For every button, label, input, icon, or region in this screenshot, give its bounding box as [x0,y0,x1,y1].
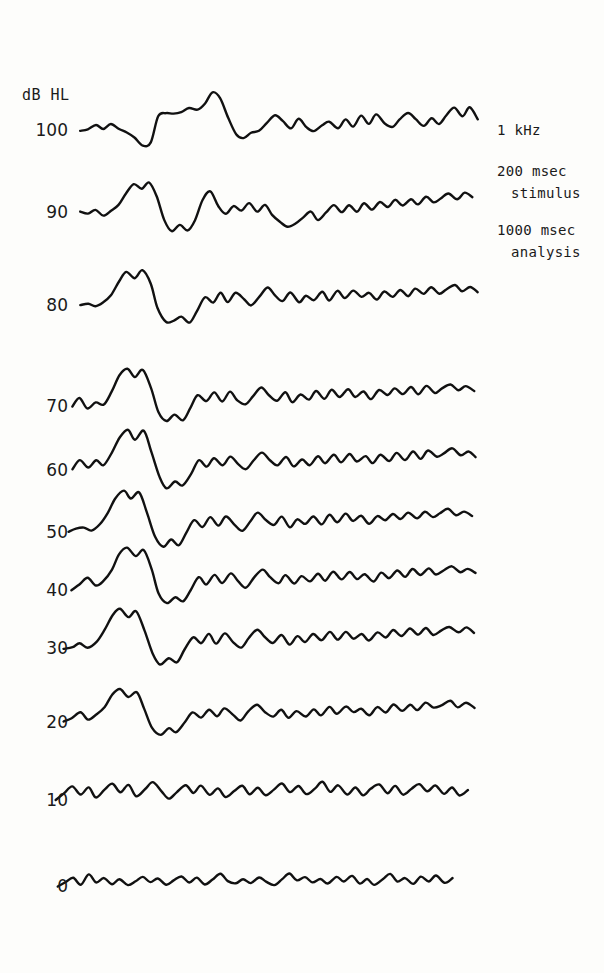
waveform-trace [72,430,475,489]
level-label-50: 50 [20,522,68,542]
waveform-trace [72,369,474,421]
waveform-trace [64,689,475,735]
waveform-trace [64,609,475,665]
annotation-line-4: analysis [511,244,581,260]
axis-unit-label: dB HL [22,86,70,104]
level-label-40: 40 [20,580,68,600]
waveform-trace [58,874,453,887]
waveform-trace [80,182,472,231]
level-label-70: 70 [20,396,68,416]
annotation-line-2: stimulus [511,185,581,201]
waveform-trace [71,548,475,604]
level-label-0: 0 [20,876,68,896]
level-label-100: 100 [20,120,68,140]
waveform-trace [80,92,478,146]
waveform-plot-canvas [0,0,604,973]
evoked-response-figure: dB HL 1009080706050403020100 1 kHz200 ms… [0,0,604,973]
waveform-trace [56,782,468,800]
annotation-line-3: 1000 msec [497,222,576,238]
level-label-30: 30 [20,638,68,658]
level-label-10: 10 [20,790,68,810]
level-label-80: 80 [20,295,68,315]
waveform-trace [80,270,477,323]
waveform-trace [69,491,473,547]
annotation-line-1: 200 msec [497,163,567,179]
level-label-20: 20 [20,712,68,732]
level-label-60: 60 [20,460,68,480]
level-label-90: 90 [20,202,68,222]
annotation-line-0: 1 kHz [497,122,541,138]
waveform-trace-group [56,92,478,886]
